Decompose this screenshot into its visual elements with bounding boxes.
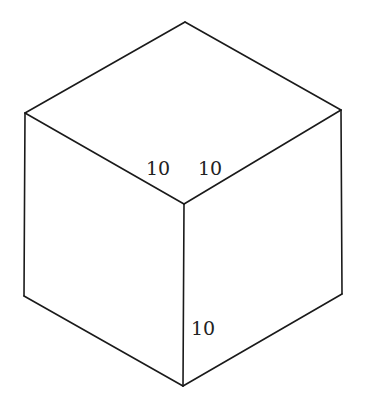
edge-right-vertical <box>341 110 342 294</box>
label-vertical-edge: 10 <box>191 317 215 339</box>
label-top-right-edge: 10 <box>198 157 222 179</box>
edge-top-to-right <box>185 22 341 110</box>
cube-edges <box>24 22 342 386</box>
edge-left-vertical <box>24 113 25 296</box>
edge-center-vertical <box>183 204 184 386</box>
edge-top-to-left <box>25 22 185 113</box>
label-top-left-edge: 10 <box>146 157 170 179</box>
cube-diagram: 10 10 10 <box>0 0 368 415</box>
edge-bottom-left <box>24 296 183 386</box>
edge-bottom-right <box>183 294 342 386</box>
